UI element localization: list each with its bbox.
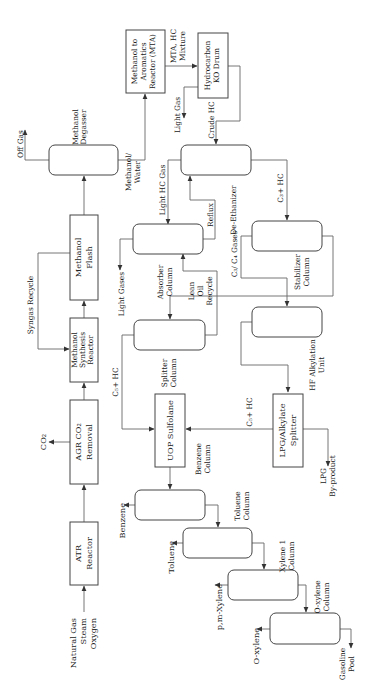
- gasoline-pool-line: [340, 629, 351, 648]
- lpg-splitter-label-1: LPG/Alkylate: [277, 403, 287, 457]
- xylene1-col-label-2: Column: [287, 541, 296, 570]
- process-flow-diagram: ATR Reactor AGR CO₂ Removal Methanol Syn…: [0, 0, 376, 683]
- hf-alkylation-unit: HF Alkylation Unit: [252, 307, 326, 391]
- ko-drum-label-2: KO Drum: [212, 48, 221, 83]
- splitter-label-2: Column: [169, 358, 178, 387]
- stabilizer-label-1: Stabilizer: [293, 254, 302, 291]
- mta-hc-mixture-label-2: Mixture: [178, 31, 187, 61]
- flash-label-1: Methanol: [73, 237, 83, 277]
- toluene-col-label-2: Column: [242, 491, 251, 520]
- off-gas-line: [25, 130, 49, 160]
- agr-co2-removal: AGR CO₂ Removal: [70, 400, 98, 484]
- deethanizer-label: De-Ethanizer: [229, 185, 238, 235]
- syngas-recycle-label: Syngas Recycle: [26, 276, 35, 334]
- stabilizer-label-2: Column: [302, 257, 311, 286]
- mta-reactor: Methanol to Aromatics Reactor (MTA): [126, 30, 165, 93]
- c3-c4-gases-label: C₃/ C₄ Gases: [230, 230, 239, 277]
- benzene-col-label-1: Benzene: [194, 443, 203, 475]
- toluene-to-xylene-line: [252, 543, 264, 569]
- syngas-recycle-line: [38, 253, 70, 349]
- de-ethanizer: De-Ethanizer: [181, 145, 251, 235]
- mta-label-3: Reactor (MTA): [148, 34, 157, 89]
- uop-sulfolane: UOP Sulfolane: [155, 394, 185, 467]
- c5-hc-right-label: C₅+ HC: [245, 397, 254, 427]
- c5-hc-left-label: C₅+ HC: [111, 367, 120, 397]
- light-hc-gas-line: [168, 160, 181, 224]
- hf-alky-label-1: HF Alkylation: [308, 339, 317, 391]
- absorber-label-1: Absorber: [156, 264, 165, 300]
- hydrocarbon-ko-drum: Hydrocarbon KO Drum: [198, 33, 228, 98]
- atr-label-2: Reactor: [84, 537, 94, 570]
- agr-label-1: AGR CO₂: [73, 423, 83, 461]
- stream-labels: Natural Gas Steam Oxygen CO₂ Syngas Recy…: [16, 29, 356, 681]
- degasser-label-2: Degasser: [79, 109, 88, 144]
- xylene-to-oxylene-line: [298, 585, 306, 612]
- lpg-alkylate-splitter: LPG/Alkylate Splitter: [273, 394, 303, 467]
- splitter-column: Splitter Column: [134, 320, 205, 388]
- lpg-byproduct-label-2: By-product: [328, 455, 337, 496]
- lpg-splitter-label-2: Splitter: [288, 415, 298, 447]
- light-gas-line: [184, 87, 198, 118]
- lean-oil-label-3: Recycle: [205, 276, 214, 305]
- absorber-label-2: Column: [165, 267, 174, 296]
- feed-label-3: Oxygen: [88, 617, 98, 649]
- toluene-label: Toluene: [166, 541, 176, 574]
- atr-label-1: ATR: [73, 544, 83, 563]
- toluene-col-label-1: Toluene: [233, 491, 242, 520]
- flash-label-2: Flash: [84, 245, 94, 268]
- benzene-label: Benzene: [117, 503, 127, 539]
- oxylene-col-label-1: O-xylene: [313, 580, 322, 613]
- off-gas-label: Off Gas: [16, 130, 25, 158]
- splitter-label-1: Splitter: [160, 358, 169, 387]
- mta-label-1: Methanol to: [130, 38, 139, 84]
- benzene-to-toluene-line: [205, 505, 218, 527]
- xylene1-col-label-1: Xylene 1: [278, 540, 287, 572]
- c3-hc-label: C₃+ HC: [276, 173, 285, 203]
- light-gases-line: [120, 239, 133, 270]
- methanol-water-label-1: Methanol/: [124, 152, 133, 191]
- atr-reactor: ATR Reactor: [70, 522, 98, 585]
- hf-alky-label-2: Unit: [317, 357, 326, 373]
- sulfolane-label: UOP Sulfolane: [165, 400, 175, 461]
- light-gases-label: Light Gases: [117, 272, 126, 317]
- mta-hc-mixture-label-1: MTA, HC: [169, 29, 178, 64]
- agr-label-2: Removal: [84, 424, 94, 460]
- reflux-label: Reflux: [206, 202, 215, 227]
- gasoline-pool-label-2: Pool: [347, 655, 356, 672]
- crude-hc-label: Crude HC: [207, 101, 216, 139]
- methanol-degasser: Methanol Degasser: [49, 109, 118, 175]
- oxylene-col-label-2: Column: [322, 582, 331, 611]
- feed-label-1: Natural Gas: [68, 618, 78, 668]
- co2-label: CO₂: [38, 434, 48, 450]
- methanol-flash: Methanol Flash: [70, 215, 98, 300]
- lpg-byproduct-line: [303, 429, 328, 466]
- mesr-label-3: Reactor: [86, 335, 95, 365]
- lean-oil-label-1: Lean: [187, 282, 196, 301]
- lean-oil-label-2: Oil: [196, 285, 205, 296]
- gasoline-pool-label-1: Gasoline: [338, 648, 347, 680]
- lpg-byproduct-label-1: LPG: [319, 468, 328, 484]
- feed-label-2: Steam: [78, 618, 88, 645]
- ko-drum-label-1: Hydrocarbon: [203, 41, 212, 91]
- methanol-synthesis-reactor: Methanol Synthesis Reactor: [70, 318, 98, 382]
- benzene-col-label-2: Column: [203, 444, 212, 473]
- light-gas-label: Light Gas: [173, 97, 182, 133]
- pm-xylene-label: p,m-Xylene: [214, 584, 224, 630]
- methanol-water-line: [118, 94, 145, 160]
- mta-label-2: Aromatics: [139, 42, 148, 81]
- o-xylene-label: O-xylene: [251, 628, 261, 665]
- methanol-water-label-2: Water: [133, 160, 142, 183]
- light-hc-gas-label: Light HC Gas: [158, 164, 167, 215]
